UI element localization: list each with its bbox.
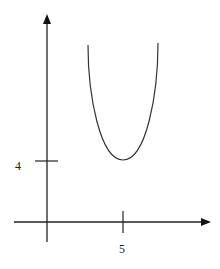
x-tick-label: 5	[119, 242, 125, 256]
y-axis-arrow-icon	[43, 14, 51, 24]
y-axis	[43, 14, 51, 242]
y-tick-label: 4	[15, 159, 21, 173]
x-axis-arrow-icon	[201, 218, 211, 226]
graph: 4 5	[0, 0, 220, 269]
x-axis	[14, 218, 211, 226]
parabola-curve	[88, 43, 158, 160]
